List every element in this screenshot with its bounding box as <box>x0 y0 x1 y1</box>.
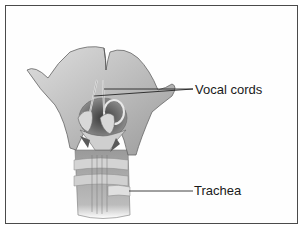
label-trachea: Trachea <box>194 184 241 197</box>
larynx-illustration <box>0 0 306 232</box>
trachea-shape <box>74 150 130 219</box>
label-vocal-cords: Vocal cords <box>195 83 262 96</box>
